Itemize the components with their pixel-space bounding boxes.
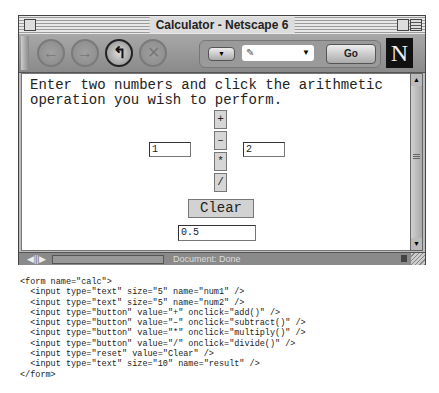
num1-input[interactable]: 1 bbox=[149, 142, 191, 157]
collapse-box-icon[interactable] bbox=[410, 19, 422, 31]
window-title: Calculator - Netscape 6 bbox=[150, 17, 295, 33]
security-lock-icon[interactable] bbox=[401, 255, 407, 262]
status-bar: ◀||▶ Document: Done bbox=[19, 252, 425, 265]
scroll-up-icon[interactable]: ▲ bbox=[411, 74, 422, 86]
num2-input[interactable]: 2 bbox=[243, 142, 285, 157]
reload-icon: ↰ bbox=[113, 44, 126, 61]
multiply-button[interactable]: * bbox=[214, 152, 227, 171]
chevron-down-icon: ▼ bbox=[218, 50, 225, 57]
add-button[interactable]: + bbox=[214, 110, 227, 129]
go-button[interactable]: Go bbox=[326, 44, 376, 64]
progress-bar bbox=[52, 255, 164, 264]
url-input[interactable]: ✎ ▼ bbox=[242, 45, 314, 61]
back-arrow-icon: ← bbox=[43, 44, 59, 61]
forward-arrow-icon: → bbox=[77, 44, 93, 61]
url-group: ▼ ✎ ▼ Go bbox=[199, 40, 381, 68]
code-listing: <form name="calc"> <input type="text" si… bbox=[20, 277, 306, 380]
stop-button[interactable]: ✕ bbox=[139, 39, 167, 67]
instructions-text: Enter two numbers and click the arithmet… bbox=[30, 78, 383, 108]
subtract-button[interactable]: – bbox=[214, 131, 227, 150]
reload-button[interactable]: ↰ bbox=[105, 39, 133, 67]
status-text: Document: Done bbox=[173, 253, 241, 265]
divide-button[interactable]: / bbox=[214, 173, 227, 192]
toolbar-grip[interactable] bbox=[21, 36, 29, 70]
netscape-logo[interactable]: N bbox=[386, 38, 413, 68]
forward-button[interactable]: → bbox=[71, 39, 99, 67]
back-button[interactable]: ← bbox=[37, 39, 65, 67]
stop-icon: ✕ bbox=[147, 44, 160, 61]
page-content: Enter two numbers and click the arithmet… bbox=[21, 73, 411, 251]
browser-window: Calculator - Netscape 6 ← → ↰ ✕ ▼ ✎ ▼ Go… bbox=[18, 15, 426, 265]
clear-button[interactable]: Clear bbox=[188, 199, 254, 218]
title-bar[interactable]: Calculator - Netscape 6 bbox=[19, 16, 425, 35]
result-input[interactable]: 0.5 bbox=[178, 225, 256, 241]
vertical-scrollbar[interactable]: ▲ ▼ bbox=[410, 73, 423, 251]
navigation-toolbar: ← → ↰ ✕ ▼ ✎ ▼ Go N bbox=[19, 34, 425, 73]
resize-grip-icon[interactable] bbox=[411, 253, 425, 265]
bookmark-tag-icon: ✎ bbox=[246, 47, 254, 58]
zoom-box-icon[interactable] bbox=[397, 19, 409, 31]
close-box-icon[interactable] bbox=[24, 19, 36, 31]
url-dropdown-icon[interactable]: ▼ bbox=[302, 48, 310, 57]
scroll-down-icon[interactable]: ▼ bbox=[411, 238, 422, 250]
scroll-thumb-grip[interactable] bbox=[413, 154, 420, 160]
history-dropdown-button[interactable]: ▼ bbox=[208, 47, 235, 61]
component-bar-icon[interactable]: ◀||▶ bbox=[27, 253, 46, 265]
